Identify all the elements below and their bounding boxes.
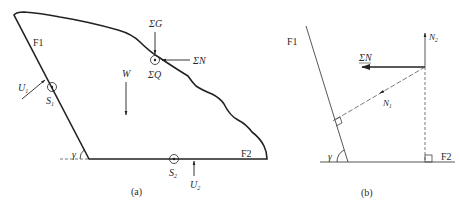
gamma-angle-arc-b (337, 150, 344, 162)
u1-label: U1 (18, 82, 28, 94)
caption-a: (a) (131, 186, 142, 198)
sum-q-point-dot (154, 59, 156, 61)
gamma-label-b: γ (328, 151, 333, 162)
s1-label: S1 (46, 95, 54, 107)
rock-block-outline (14, 12, 267, 159)
sum-n-label-b: ΣN (358, 52, 373, 63)
weight-label: W (122, 68, 132, 79)
sum-q-label: ΣQ (147, 69, 162, 80)
gamma-label-a: γ (72, 149, 77, 160)
plane-label-f2-b: F2 (441, 151, 452, 162)
n1-force-line-dashed (333, 67, 425, 121)
s2-label: S2 (169, 167, 177, 179)
panel-a: γ F1 F2 S1 U1 ΣG ΣN ΣQ W S2 U2 (a) (14, 12, 267, 198)
right-angle-marker-f2 (425, 155, 432, 162)
s1-point-dot (51, 86, 53, 88)
caption-b: (b) (361, 187, 373, 199)
plane-label-f2-a: F2 (241, 148, 252, 159)
plane-f1-line-b (306, 26, 348, 162)
n1-label: N1 (382, 98, 392, 109)
gamma-angle-arc (80, 150, 84, 159)
n2-label: N2 (428, 32, 438, 43)
wedge-force-diagram: γ F1 F2 S1 U1 ΣG ΣN ΣQ W S2 U2 (a) (0, 0, 460, 212)
plane-label-f1-a: F1 (33, 37, 44, 48)
plane-label-f1-b: F1 (287, 36, 298, 47)
sum-g-label: ΣG (148, 18, 162, 29)
u2-label: U2 (190, 179, 200, 191)
s2-point-dot (173, 158, 175, 160)
panel-b: F1 F2 γ N2 ΣN N1 (b) (287, 26, 455, 199)
sum-n-label-a: ΣN (192, 55, 207, 66)
